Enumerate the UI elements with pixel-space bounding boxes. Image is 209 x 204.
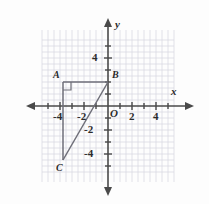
y-tick-label-4: 4 [92, 52, 98, 63]
figure-canvas: x y O -4 -2 2 4 4 -2 -4 A B C [0, 0, 209, 204]
x-tick-label--2: -2 [77, 111, 86, 122]
point-label-b: B [112, 70, 119, 80]
point-label-a: A [53, 70, 60, 80]
y-tick-label--2: -2 [84, 124, 93, 135]
x-tick-label--4: -4 [53, 111, 62, 122]
x-axis-label: x [171, 86, 177, 97]
x-axis-arrow-right [185, 102, 194, 110]
y-axis-label: y [115, 19, 120, 30]
right-angle-marker [63, 82, 71, 90]
y-axis-arrow-down [104, 187, 112, 196]
point-label-c: C [56, 163, 63, 173]
x-tick-label-4: 4 [153, 111, 159, 122]
y-tick-label--4: -4 [84, 148, 93, 159]
x-axis-arrow-left [26, 102, 35, 110]
origin-label: O [110, 108, 118, 119]
y-axis-arrow-up [104, 18, 112, 27]
coordinate-plane-svg [0, 0, 209, 204]
x-tick-label-2: 2 [129, 111, 135, 122]
